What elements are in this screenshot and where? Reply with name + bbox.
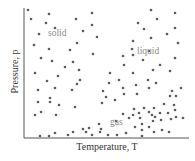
data-point	[82, 30, 85, 33]
data-point	[57, 75, 60, 78]
data-point	[92, 53, 95, 56]
data-point	[136, 93, 139, 96]
data-point	[114, 99, 117, 102]
data-point	[169, 95, 172, 98]
data-point	[147, 79, 150, 82]
data-point	[159, 112, 162, 115]
data-point	[175, 116, 178, 119]
data-point	[152, 69, 155, 72]
data-point	[132, 40, 135, 43]
data-point	[72, 61, 75, 64]
data-point	[72, 131, 75, 134]
data-point	[105, 96, 108, 99]
data-point	[142, 59, 145, 62]
data-point	[75, 18, 78, 21]
data-point	[91, 24, 94, 27]
data-point	[40, 57, 43, 60]
data-point	[109, 72, 112, 75]
data-point	[55, 114, 58, 117]
data-point	[54, 87, 57, 90]
data-point	[49, 97, 52, 100]
data-point	[139, 117, 142, 120]
data-point	[175, 95, 178, 98]
data-point	[177, 42, 180, 45]
data-point	[167, 112, 170, 115]
data-point	[161, 129, 164, 132]
data-point	[76, 83, 79, 86]
data-point	[38, 33, 41, 36]
data-point	[85, 131, 88, 134]
data-point	[154, 116, 157, 119]
data-point	[37, 101, 40, 104]
data-point	[125, 132, 128, 135]
data-point	[174, 27, 177, 30]
data-point	[159, 64, 162, 67]
x-axis-label: Temperature, T	[24, 141, 190, 152]
data-point	[98, 123, 101, 126]
y-axis-label: Pressure, p	[9, 32, 20, 112]
data-point	[160, 119, 163, 122]
data-point	[166, 33, 169, 36]
data-point	[64, 66, 67, 69]
data-point	[148, 126, 151, 129]
data-point	[152, 120, 155, 123]
data-point	[27, 9, 30, 12]
data-point	[40, 111, 43, 114]
data-point	[141, 135, 144, 138]
data-point	[134, 126, 137, 129]
data-point	[49, 101, 52, 104]
data-point	[180, 87, 183, 90]
data-point	[39, 135, 42, 138]
data-point	[135, 84, 138, 87]
data-point	[169, 70, 172, 73]
data-point	[137, 22, 140, 25]
scatter-plot-area	[0, 0, 195, 161]
data-point	[132, 54, 135, 57]
data-point	[102, 90, 105, 93]
data-point	[155, 82, 158, 85]
data-point	[131, 48, 134, 51]
data-point	[34, 114, 37, 117]
data-point	[132, 114, 135, 117]
data-point	[54, 132, 57, 135]
data-point	[91, 12, 94, 15]
region-label-liquid: liquid	[137, 46, 159, 56]
data-point	[173, 104, 176, 107]
data-point	[138, 112, 141, 115]
region-label-solid: solid	[48, 28, 66, 38]
data-point	[141, 123, 144, 126]
data-point	[48, 135, 51, 138]
data-point	[150, 37, 153, 40]
data-point	[150, 9, 153, 12]
data-point	[101, 102, 104, 105]
data-point	[100, 128, 103, 131]
data-point	[34, 72, 37, 75]
data-point	[51, 60, 54, 63]
data-point	[168, 131, 171, 134]
data-point	[45, 22, 48, 25]
data-point	[78, 69, 81, 72]
data-point	[123, 93, 126, 96]
data-point	[128, 117, 131, 120]
data-point	[143, 107, 146, 110]
data-point	[174, 12, 177, 15]
data-point	[96, 36, 99, 39]
data-point	[141, 129, 144, 132]
data-point	[99, 131, 102, 134]
data-point	[33, 44, 36, 47]
data-point	[133, 108, 136, 111]
data-point	[30, 18, 33, 21]
data-point	[76, 42, 79, 45]
data-point	[174, 57, 177, 60]
data-point	[122, 55, 125, 58]
data-point	[171, 90, 174, 93]
phase-diagram: Pressure, p Temperature, T solid liquid …	[0, 0, 195, 161]
data-point	[74, 106, 77, 109]
data-point	[79, 79, 82, 82]
data-point	[148, 87, 151, 90]
data-point	[148, 111, 151, 114]
data-point	[143, 28, 146, 31]
data-point	[48, 48, 51, 51]
data-point	[91, 134, 94, 137]
data-point	[153, 131, 156, 134]
